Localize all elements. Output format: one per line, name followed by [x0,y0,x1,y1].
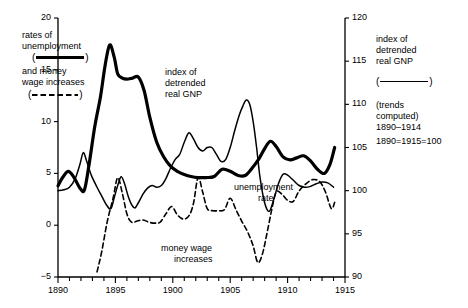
legend-right-line2: detrended [376,45,417,56]
y-tick-label-right: 90 [352,272,362,281]
inline-label-unemployment-2: rate [258,193,274,204]
x-tick-label: 1905 [220,286,240,295]
chart-figure: 189018951900190519101915−505101520909510… [0,0,468,308]
legend-right-note2: computed) [376,111,419,122]
y-tick-label-right: 95 [352,229,362,238]
plot-frame [58,18,345,277]
inline-label-gnp-3: real GNP [165,89,202,100]
legend-right-line3: real GNP [376,56,413,67]
y-tick-label-left: 0 [46,220,51,229]
legend-left-line3: and money [22,66,67,77]
legend-right-note1: (trends [376,100,404,111]
legend-left-line2: unemployment [22,41,81,52]
legend-wages-swatch: () [28,89,83,100]
y-tick-label-left: −5 [41,272,51,281]
legend-unemployment-swatch: () [32,52,89,63]
legend-right-note4: 1890=1915=100 [376,136,442,147]
legend-solid-thin-line [380,81,428,83]
legend-right-note3: 1890–1914 [376,122,421,133]
legend-right-line1: index of [376,34,408,45]
x-tick-label: 1890 [48,286,68,295]
axes-group [58,18,345,277]
y-tick-label-left: 20 [41,13,51,22]
inline-label-wages-1: money wage [161,243,212,254]
x-tick-label: 1900 [163,286,183,295]
legend-paren-close-3: ) [429,77,432,87]
legend-paren-open: ( [32,53,35,63]
x-tick-label: 1895 [105,286,125,295]
y-tick-label-right: 100 [352,186,367,195]
legend-dashed-line [32,92,78,98]
x-tick-label: 1910 [278,286,298,295]
inline-label-wages-2: increases [174,254,213,265]
inline-label-gnp-1: index of [165,67,197,78]
y-tick-label-left: 10 [41,117,51,126]
legend-left-line4: wage increases [22,77,85,88]
y-tick-label-right: 115 [352,56,366,65]
series-line-2 [58,100,334,211]
y-tick-label-left: 5 [46,168,51,177]
legend-paren-open-3: ( [376,77,379,87]
x-axis-ticks [58,277,345,283]
legend-gnp-swatch: () [376,76,433,87]
y-tick-label-right: 110 [352,99,366,108]
legend-paren-close-2: ) [79,90,82,100]
legend-solid-thick-line [36,56,84,59]
y-tick-label-right: 105 [352,143,367,152]
x-tick-label: 1915 [335,286,355,295]
inline-label-gnp-2: detrended [165,78,206,89]
legend-paren-close: ) [85,53,88,63]
inline-label-unemployment-1: unemployment [234,182,293,193]
series-line-1 [97,177,335,271]
y-tick-label-right: 120 [352,13,367,22]
legend-left-line1: rates of [22,30,52,41]
legend-paren-open-2: ( [28,90,31,100]
